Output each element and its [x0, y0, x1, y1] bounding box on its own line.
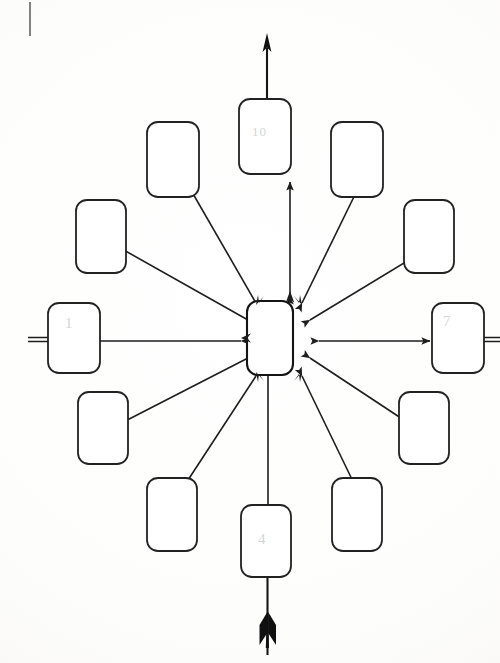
node-n-top[interactable]: [239, 99, 291, 174]
node-n-nnw[interactable]: [147, 122, 199, 197]
node-n-wnw[interactable]: [76, 200, 126, 273]
arrow-fletching-icon: [260, 612, 277, 648]
node-n-wsw[interactable]: [78, 392, 128, 464]
node-n-ssw[interactable]: [147, 478, 197, 551]
node-n-sse[interactable]: [332, 478, 382, 551]
node-n-ese[interactable]: [399, 392, 449, 464]
diagram-canvas: [0, 0, 500, 663]
node-n-left[interactable]: [48, 303, 100, 373]
diagram-page: 10 7 1 4: [0, 0, 500, 663]
node-n-bottom[interactable]: [241, 505, 291, 577]
node-n-right[interactable]: [432, 303, 484, 373]
node-n-ene[interactable]: [404, 200, 454, 273]
center-node[interactable]: [247, 301, 293, 375]
node-n-nne[interactable]: [331, 122, 383, 197]
